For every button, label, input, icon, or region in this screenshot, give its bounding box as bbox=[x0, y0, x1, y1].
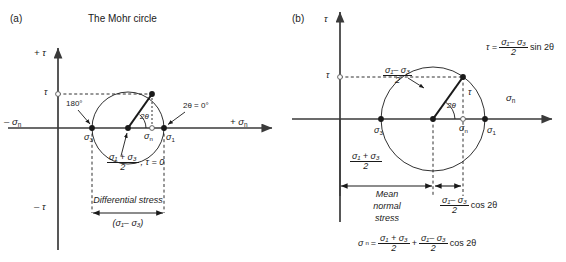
pos-sigma-glyph-a: + σ bbox=[230, 116, 244, 127]
axis-label-negative-sigma-n-a: – σn bbox=[4, 117, 21, 128]
equation-tail: cos 2θ bbox=[450, 239, 477, 248]
neg-sigma-sub-a: n bbox=[18, 121, 22, 128]
sigma1-sub-a: 1 bbox=[171, 136, 174, 143]
cos-denominator: 2 bbox=[440, 206, 469, 215]
point-sigma1-b bbox=[482, 116, 488, 122]
tau-formula-denominator: 2 bbox=[499, 48, 528, 57]
cos-tail: cos 2θ bbox=[471, 201, 498, 210]
mean-stress-fraction-b: σ₁ + σ₃ 2 bbox=[350, 152, 382, 171]
point-center-a bbox=[125, 125, 131, 131]
tau-formula-fraction: σ₁– σ₃ 2 bbox=[499, 38, 528, 57]
equation-term2-denominator: 2 bbox=[419, 244, 448, 253]
mean-normal-stress-line2: normal bbox=[348, 202, 426, 211]
point-stress-a bbox=[149, 91, 155, 97]
sigma-n-equation-b: σn = σ₁ + σ₃ 2 + σ₁– σ₃ 2 cos 2θ bbox=[358, 234, 476, 253]
sigma-n-point-label-a: σn bbox=[144, 132, 153, 142]
circle-center-expression-a: σ₁ + σ₃ 2 , τ = 0 bbox=[107, 153, 164, 172]
tau-vertical-label-b: τ bbox=[468, 88, 471, 97]
radius-denominator-b: 2 bbox=[383, 76, 412, 85]
tau-tick-label-b: τ bbox=[326, 71, 329, 80]
mean-normal-stress-line3: stress bbox=[348, 214, 426, 223]
point-sigman-b bbox=[461, 117, 466, 122]
angle-2theta-label-b: 2θ bbox=[447, 102, 456, 110]
tau-formula-tail: sin 2θ bbox=[530, 43, 554, 52]
sigma3-label-a: σ3 bbox=[84, 133, 93, 143]
equation-term2-fraction: σ₁– σ₃ 2 bbox=[419, 234, 448, 253]
differential-stress-label: Differential stress bbox=[93, 196, 163, 205]
figure-title: The Mohr circle bbox=[88, 14, 157, 24]
radius-length-expression-b: σ₁– σ₃ 2 bbox=[383, 66, 412, 85]
tau-tick-label-a: τ bbox=[44, 88, 47, 97]
mean-fraction: σ₁ + σ₃ 2 bbox=[350, 152, 382, 171]
axis-label-positive-tau-a: + τ bbox=[34, 48, 46, 58]
sigman-sub-b: n bbox=[464, 127, 467, 134]
diagram-canvas bbox=[0, 0, 566, 262]
equation-plus: + bbox=[412, 239, 417, 248]
panel-a-tag: (a) bbox=[10, 14, 22, 24]
point-tau-tick-b bbox=[338, 75, 343, 80]
center-tail-a: , τ = 0 bbox=[141, 158, 165, 167]
point-sigma3-b bbox=[378, 116, 384, 122]
equation-equals: = bbox=[371, 239, 376, 248]
point-stress-b bbox=[460, 74, 466, 80]
sigma1-label-b: σ1 bbox=[487, 126, 496, 136]
axis-label-negative-tau-a: – τ bbox=[34, 202, 45, 212]
angle-180-label-a: 180° bbox=[66, 100, 83, 108]
sigman-sub-a: n bbox=[149, 135, 152, 142]
equation-term1-fraction: σ₁ + σ₃ 2 bbox=[378, 234, 410, 253]
point-center-b bbox=[430, 116, 436, 122]
angle-2theta-zero-label-a: 2θ = 0° bbox=[183, 102, 209, 110]
equation-lhs-sub: n bbox=[365, 240, 368, 246]
mohr-circle-figure: (a) The Mohr circle + τ – τ – σn + σn τ … bbox=[0, 0, 566, 262]
point-sigma3-a bbox=[89, 125, 95, 131]
point-tau-tick-a bbox=[56, 92, 61, 97]
panel-b-radius-line bbox=[408, 77, 463, 119]
panel-b-tag: (b) bbox=[292, 14, 304, 24]
sigma3-label-b: σ3 bbox=[374, 126, 383, 136]
cos-fraction: σ₁– σ₃ 2 bbox=[440, 196, 469, 215]
pos-sigma-sub-a: n bbox=[244, 121, 248, 128]
tau-formula-b: τ = σ₁– σ₃ 2 sin 2θ bbox=[486, 38, 554, 57]
neg-sigma-glyph-a: – σ bbox=[4, 116, 18, 127]
mean-denominator: 2 bbox=[350, 162, 382, 171]
axis-label-sigma-n-b: σn bbox=[506, 93, 515, 104]
sigma1-label-a: σ1 bbox=[166, 133, 175, 143]
center-fraction-a: σ₁ + σ₃ 2 bbox=[107, 153, 139, 172]
point-sigman-a bbox=[150, 126, 155, 131]
panel-b-guides bbox=[340, 77, 463, 196]
equation-term1-denominator: 2 bbox=[378, 244, 410, 253]
radius-fraction-b: σ₁– σ₃ 2 bbox=[383, 66, 412, 85]
axis-label-tau-b: τ bbox=[324, 14, 328, 24]
angle-2theta-label-a: 2θ bbox=[140, 113, 149, 121]
equation-lhs-glyph: σ bbox=[358, 239, 363, 248]
point-sigma1-a bbox=[161, 125, 167, 131]
axis-label-positive-sigma-n-a: + σn bbox=[230, 117, 248, 128]
sigma1-sub-b: 1 bbox=[492, 129, 495, 136]
sigma3-sub-a: 3 bbox=[89, 136, 92, 143]
mean-normal-stress-line1: Mean bbox=[348, 190, 426, 199]
sigma3-sub-b: 3 bbox=[379, 129, 382, 136]
axis-sigman-sub-b: n bbox=[512, 97, 516, 104]
tau-formula-lhs: τ = bbox=[486, 43, 497, 52]
panel-a-radius-line bbox=[128, 94, 152, 128]
sigma-n-point-label-b: σn bbox=[459, 124, 468, 134]
center-denominator-a: 2 bbox=[107, 163, 139, 172]
differential-stress-expression: (σ₁– σ₃) bbox=[93, 219, 163, 228]
cos-term-expression-b: σ₁– σ₃ 2 cos 2θ bbox=[440, 196, 497, 215]
